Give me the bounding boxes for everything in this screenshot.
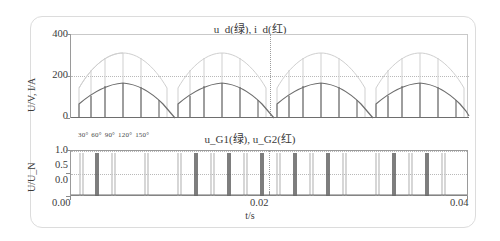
angle-mark-90: 90° xyxy=(105,131,115,139)
top-waveform-svg xyxy=(71,34,469,118)
bottom-ytick-05: 0.5 xyxy=(34,159,68,170)
top-subplot-axes xyxy=(70,34,468,118)
angle-mark-30: 30° xyxy=(78,131,88,139)
bottom-subplot-axes xyxy=(70,150,468,196)
top-ytick-400: 400 xyxy=(34,28,68,39)
top-ytick-200: 200 xyxy=(34,69,68,80)
top-ytick-0: 0 xyxy=(34,110,68,121)
bottom-ytick-0: 0.0 xyxy=(34,174,68,185)
xtick-004: 0.04 xyxy=(450,197,468,208)
xtick-0: 0.00 xyxy=(52,197,70,208)
tickmark-x-004 xyxy=(467,196,468,200)
angle-mark-150: 150° xyxy=(135,131,149,139)
angle-mark-60: 60° xyxy=(91,131,101,139)
x-axis-label: t/s xyxy=(0,210,500,221)
xtick-002: 0.02 xyxy=(250,197,268,208)
angle-mark-120: 120° xyxy=(118,131,132,139)
trace-i-d-red xyxy=(71,83,469,118)
top-y-axis-label: U/V, I/A xyxy=(26,78,37,112)
trace-u-g2-red xyxy=(96,153,428,196)
bottom-subplot-title: u_G1(绿), u_G2(红) xyxy=(0,130,500,146)
bottom-pulse-svg xyxy=(71,151,467,196)
tickmark-top-0 xyxy=(66,118,70,119)
bottom-ytick-1: 1.0 xyxy=(34,144,68,155)
tickmark-x-0 xyxy=(70,196,71,200)
firing-angle-annotations: 30° 60° 90° 120° 150° xyxy=(78,131,149,139)
figure-canvas: u_d(绿), i_d(红) u_G1(绿), u_G2(红) 30° 60° … xyxy=(0,0,500,241)
